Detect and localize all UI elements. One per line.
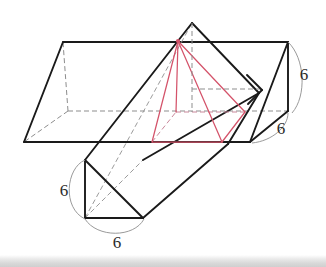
arc-lower-width	[85, 219, 144, 233]
pyramid-apex-point	[176, 39, 180, 43]
tilted-prism-right-long-edge	[192, 23, 259, 93]
main-prism-left-slant	[24, 42, 63, 142]
dimension-label-lower-height: 6	[60, 181, 69, 200]
geometry-diagram: 6 6 6 6	[0, 0, 326, 267]
dimension-label-right-height: 6	[300, 65, 309, 84]
tilted-prism-left-long-edge	[85, 23, 192, 160]
bottom-gray-bar	[0, 255, 326, 267]
dimension-label-lower-width: 6	[113, 233, 122, 252]
dimension-arcs	[69, 42, 302, 233]
geometry-figure: 6 6 6 6	[0, 0, 326, 267]
pyramid-edge-apex-back-left	[176, 41, 178, 112]
tilted-prism-far-lower-edge	[228, 93, 259, 144]
tilted-prism-mid-long-edge	[143, 93, 259, 160]
pyramid-edge-apex-back-right	[178, 41, 245, 112]
dimension-label-right-depth: 6	[277, 119, 286, 138]
tilted-prism-solid-edges	[85, 23, 259, 218]
tilted-prism-bottom-long-edge	[143, 144, 228, 218]
hidden-edge-left-vertical	[63, 42, 68, 111]
far-corner-lower	[248, 90, 262, 104]
pyramid-base-right	[222, 112, 245, 142]
arc-lower-height	[69, 160, 85, 219]
